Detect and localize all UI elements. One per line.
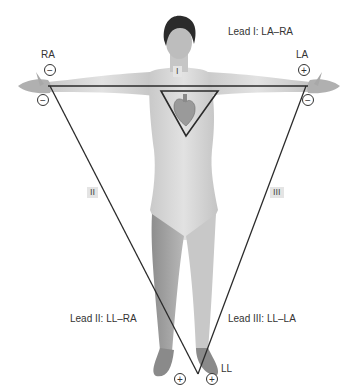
lead-ii-label: Lead II: LL–RA (70, 314, 137, 324)
ll-positive-electrode-icon: + (174, 373, 186, 385)
ra-negative-electrode-icon: − (44, 64, 56, 76)
lead-ii-marker: II (87, 187, 98, 198)
ll-label: LL (221, 364, 232, 374)
ra-negative-electrode-icon: − (37, 94, 49, 106)
ll-positive-electrode-icon: + (206, 373, 218, 385)
la-positive-electrode-icon: + (298, 64, 310, 76)
la-negative-electrode-icon: − (302, 94, 314, 106)
lead-iii-marker: III (270, 187, 284, 198)
lead-iii-label: Lead III: LL–LA (228, 314, 296, 324)
torso (149, 68, 218, 241)
lead-i-label: Lead I: LA–RA (228, 27, 293, 37)
la-label: LA (296, 50, 308, 60)
head (164, 16, 196, 72)
lead-i-marker: I (173, 66, 182, 77)
ra-label: RA (41, 50, 55, 60)
